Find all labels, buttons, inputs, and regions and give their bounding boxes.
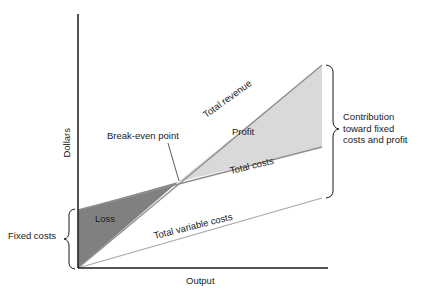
break-even-point-label: Break-even point: [107, 131, 179, 141]
break-even-chart: Dollars Output Loss Profit Total revenue…: [0, 0, 421, 296]
profit-region-label: Profit: [232, 127, 254, 137]
total-revenue-line: [78, 65, 322, 268]
break-even-leader-line: [168, 143, 179, 181]
loss-region-label: Loss: [95, 214, 115, 224]
fixed-costs-label: Fixed costs: [8, 231, 56, 241]
total-costs-line: [78, 147, 322, 210]
fixed-costs-brace: [64, 209, 75, 269]
contribution-label: Contribution toward fixed costs and prof…: [343, 111, 417, 146]
x-axis-title: Output: [186, 276, 215, 286]
y-axis-title: Dollars: [62, 128, 72, 158]
contribution-brace: [326, 65, 339, 198]
